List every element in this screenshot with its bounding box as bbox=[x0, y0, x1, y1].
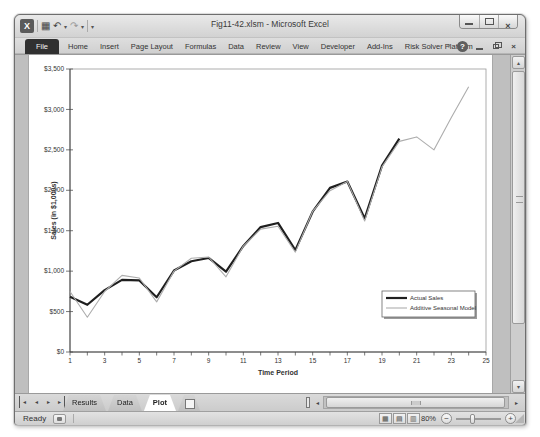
svg-text:11: 11 bbox=[240, 357, 247, 364]
sales-chart: $0$500$1,000$1,500$2,000$2,500$3,000$3,5… bbox=[29, 55, 494, 394]
svg-text:$0: $0 bbox=[57, 348, 65, 355]
scroll-down-icon[interactable]: ▾ bbox=[512, 380, 525, 393]
ribbon-tab-bar: File Home Insert Page Layout Formulas Da… bbox=[15, 38, 525, 54]
minimize-button[interactable] bbox=[460, 15, 479, 28]
tab-add-ins[interactable]: Add-Ins bbox=[367, 42, 393, 51]
zoom-level[interactable]: 80% bbox=[421, 414, 436, 423]
tab-split-handle[interactable] bbox=[306, 397, 310, 408]
separator bbox=[73, 414, 74, 423]
minimize-icon bbox=[465, 23, 473, 25]
chart-sheet-page: $0$500$1,000$1,500$2,000$2,500$3,000$3,5… bbox=[28, 55, 493, 394]
y-axis: $0$500$1,000$1,500$2,000$2,500$3,000$3,5… bbox=[44, 65, 73, 355]
ribbon-right-controls: ▿ ? × bbox=[447, 38, 519, 54]
insert-worksheet-tab[interactable] bbox=[178, 395, 200, 411]
svg-text:$500: $500 bbox=[50, 308, 65, 315]
vertical-scrollbar[interactable]: ▴ ▾ bbox=[510, 55, 525, 394]
next-sheet-icon[interactable]: ▸ bbox=[43, 396, 53, 408]
previous-sheet-icon[interactable]: ◂ bbox=[31, 396, 41, 408]
view-shortcuts: ▦ ▤ ▥ bbox=[379, 413, 420, 424]
svg-text:19: 19 bbox=[378, 357, 386, 364]
svg-text:23: 23 bbox=[448, 357, 456, 364]
tab-data[interactable]: Data bbox=[228, 42, 244, 51]
expand-ribbon-icon[interactable]: ▿ bbox=[447, 42, 451, 50]
sheet-tab-results[interactable]: Results bbox=[63, 395, 106, 411]
help-icon[interactable]: ? bbox=[457, 41, 468, 52]
svg-text:17: 17 bbox=[344, 357, 352, 364]
sheet-tab-bar: ◂ ◂ ▸ ▸ Results Data Plot ◂ ▸ bbox=[15, 393, 525, 411]
excel-window: X ▦ ↶ ▾ ↷ ▾ ▾ Fig11-42.xlsm - Microsoft … bbox=[14, 14, 526, 425]
maximize-icon bbox=[485, 18, 494, 25]
workbook-restore-button[interactable] bbox=[491, 41, 502, 52]
tab-review[interactable]: Review bbox=[256, 42, 281, 51]
first-sheet-icon[interactable]: ◂ bbox=[19, 396, 29, 408]
svg-text:9: 9 bbox=[207, 357, 211, 364]
svg-text:25: 25 bbox=[482, 357, 490, 364]
status-bar: Ready ▦ ▤ ▥ 80% − + bbox=[15, 411, 525, 425]
x-axis-title: Time Period bbox=[258, 369, 298, 376]
page-layout-view-icon[interactable]: ▤ bbox=[393, 413, 406, 424]
sheet-tab-data[interactable]: Data bbox=[108, 395, 142, 411]
svg-text:7: 7 bbox=[172, 357, 176, 364]
tab-page-layout[interactable]: Page Layout bbox=[131, 42, 173, 51]
svg-text:21: 21 bbox=[413, 357, 421, 364]
svg-text:15: 15 bbox=[309, 357, 317, 364]
zoom-out-icon[interactable]: − bbox=[441, 413, 452, 424]
sheet-tab-plot[interactable]: Plot bbox=[144, 395, 176, 411]
svg-text:Actual Sales: Actual Sales bbox=[410, 295, 443, 301]
window-title: Fig11-42.xlsm - Microsoft Excel bbox=[15, 19, 525, 29]
svg-text:3: 3 bbox=[103, 357, 107, 364]
worksheet-area: $0$500$1,000$1,500$2,000$2,500$3,000$3,5… bbox=[15, 54, 525, 393]
ribbon-tabs: Home Insert Page Layout Formulas Data Re… bbox=[68, 38, 473, 54]
svg-text:5: 5 bbox=[138, 357, 142, 364]
tab-home[interactable]: Home bbox=[68, 42, 88, 51]
svg-text:Additive Seasonal Model: Additive Seasonal Model bbox=[410, 305, 476, 311]
scroll-left-icon[interactable]: ◂ bbox=[312, 397, 322, 409]
close-button[interactable]: × bbox=[498, 15, 517, 28]
zoom-slider[interactable] bbox=[456, 418, 501, 420]
page-break-view-icon[interactable]: ▥ bbox=[407, 413, 420, 424]
svg-text:13: 13 bbox=[274, 357, 282, 364]
tab-insert[interactable]: Insert bbox=[100, 42, 119, 51]
close-icon: × bbox=[505, 21, 510, 29]
resize-grip[interactable] bbox=[515, 414, 524, 423]
y-axis-title: Sales (in $1,000s) bbox=[50, 181, 58, 239]
scroll-right-icon[interactable]: ▸ bbox=[511, 397, 521, 409]
x-axis: 135791113151719212325 bbox=[68, 352, 490, 364]
vertical-scrollbar-thumb[interactable] bbox=[512, 71, 525, 324]
svg-text:1: 1 bbox=[68, 357, 72, 364]
tab-view[interactable]: View bbox=[293, 42, 309, 51]
workbook-close-button[interactable]: × bbox=[508, 41, 519, 52]
svg-text:$2,500: $2,500 bbox=[44, 146, 64, 153]
svg-text:$1,000: $1,000 bbox=[44, 267, 64, 274]
scroll-up-icon[interactable]: ▴ bbox=[512, 56, 525, 69]
legend: Actual SalesAdditive Seasonal Model bbox=[382, 291, 477, 319]
tab-developer[interactable]: Developer bbox=[321, 42, 355, 51]
normal-view-icon[interactable]: ▦ bbox=[379, 413, 392, 424]
svg-text:$3,000: $3,000 bbox=[44, 106, 64, 113]
sheet-tabs: Results Data Plot bbox=[63, 395, 200, 411]
minimize-icon bbox=[476, 48, 483, 50]
horizontal-scrollbar[interactable] bbox=[323, 396, 509, 409]
window-controls: × bbox=[459, 15, 518, 29]
record-macro-button[interactable] bbox=[53, 414, 66, 424]
horizontal-scrollbar-thumb[interactable] bbox=[326, 397, 505, 408]
tab-formulas[interactable]: Formulas bbox=[185, 42, 216, 51]
maximize-button[interactable] bbox=[479, 15, 498, 28]
status-mode: Ready bbox=[23, 414, 46, 423]
restore-icon bbox=[493, 44, 499, 49]
sheet-nav-buttons: ◂ ◂ ▸ ▸ bbox=[19, 396, 65, 408]
workbook-minimize-button[interactable] bbox=[474, 41, 485, 52]
zoom-slider-thumb[interactable] bbox=[470, 414, 475, 424]
tab-file[interactable]: File bbox=[25, 39, 59, 54]
title-bar: X ▦ ↶ ▾ ↷ ▾ ▾ Fig11-42.xlsm - Microsoft … bbox=[15, 15, 525, 38]
svg-text:$3,500: $3,500 bbox=[44, 65, 64, 72]
